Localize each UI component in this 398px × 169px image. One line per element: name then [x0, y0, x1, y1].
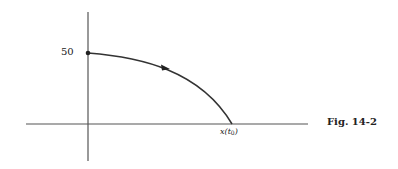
x-intercept-label: x(t0)	[220, 127, 238, 136]
diagram-canvas	[0, 0, 398, 169]
start-point	[86, 51, 91, 56]
figure: 50 x(t0) Fig. 14-2	[0, 0, 398, 169]
trajectory-curve	[88, 53, 232, 124]
figure-caption: Fig. 14-2	[327, 116, 377, 127]
y-intercept-label: 50	[61, 46, 74, 57]
x-intercept-label-main: x(t	[220, 127, 231, 136]
x-intercept-label-close: )	[235, 127, 238, 136]
